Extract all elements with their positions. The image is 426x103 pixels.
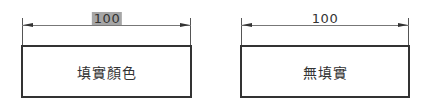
arrowhead-right-icon [398,23,408,27]
extension-line-right [408,18,409,48]
unfilled-rectangle: 無填實 [240,45,410,98]
dimension-figure-no-fill: 100 無填實 [0,0,426,103]
arrowhead-left-icon [242,23,252,27]
box-label: 無填實 [303,62,348,82]
dimension-label: 100 [310,12,340,25]
